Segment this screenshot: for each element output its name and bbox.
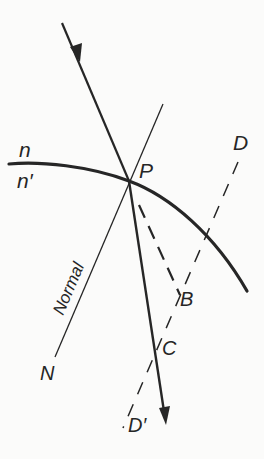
refraction-diagram: n n′ P D B C D′ N Normal (0, 0, 264, 459)
label-D: D (233, 131, 248, 154)
label-B: B (180, 288, 193, 310)
label-D-prime: D′ (128, 414, 147, 436)
label-C: C (162, 337, 177, 359)
label-N: N (40, 362, 55, 384)
refracted-arrowhead-icon (159, 406, 170, 425)
refracted-ray (129, 181, 165, 418)
label-normal: Normal (49, 259, 88, 318)
label-n: n (19, 138, 31, 161)
label-n-prime: n′ (17, 169, 34, 192)
normal-line (55, 104, 163, 357)
label-P: P (139, 159, 153, 182)
